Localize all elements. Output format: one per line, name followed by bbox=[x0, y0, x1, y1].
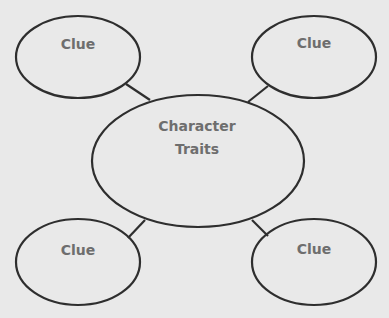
center-label-line1: Character bbox=[158, 118, 236, 134]
connector-top-right bbox=[248, 86, 268, 102]
connector-bottom-left bbox=[128, 220, 145, 238]
center-bubble bbox=[92, 95, 304, 227]
clue-label: Clue bbox=[297, 35, 332, 51]
clue-label: Clue bbox=[61, 36, 96, 52]
clue-label: Clue bbox=[297, 241, 332, 257]
clue-bubble-top-right bbox=[252, 16, 376, 98]
clue-bubble-bottom-left bbox=[16, 219, 140, 305]
center-label-line2: Traits bbox=[175, 141, 219, 157]
clue-bubble-top-left bbox=[16, 16, 140, 98]
character-traits-web: Clue Clue Character Traits Clue Clue bbox=[0, 0, 389, 318]
clue-bubble-bottom-right bbox=[252, 219, 376, 305]
connector-bottom-right bbox=[252, 220, 268, 236]
clue-label: Clue bbox=[61, 242, 96, 258]
connector-top-left bbox=[126, 84, 150, 100]
